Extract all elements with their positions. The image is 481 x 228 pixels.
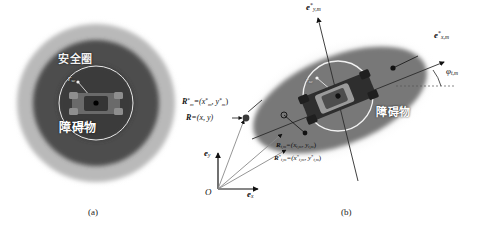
vehicle-top-view-a	[69, 92, 123, 115]
R-rhs: =(x, y)	[191, 113, 213, 122]
radius-subscript-b: sc	[309, 79, 313, 84]
caption-b: (b)	[341, 207, 352, 217]
R-tm-rhs3: )	[314, 141, 316, 149]
vector-R-star-m-label: R*m=(x*m, y*m)	[182, 97, 228, 107]
origin-label: O	[205, 187, 212, 197]
R-tm-rhs: =(x	[286, 141, 296, 149]
vehicle-center-dot	[93, 100, 98, 105]
R-tm-star-rhs: =(x	[286, 154, 296, 162]
panel-a-graphics	[8, 15, 184, 191]
R-star-m-rhs: =(x	[194, 97, 206, 106]
vehicle-wheel	[114, 92, 123, 99]
vehicle-wheel	[69, 108, 78, 115]
vehicle-wheel	[114, 108, 123, 115]
figure-container: 安全圈 障碍物 rsc e*y,m e*x,m φt,m rsc 障碍物 R*m…	[0, 0, 481, 228]
vector-R	[218, 120, 244, 189]
basis-x-star-sub: x,m	[441, 34, 449, 40]
vehicle-wheel	[69, 92, 78, 99]
e-y-sub: y	[208, 152, 210, 158]
panel-b-graphics	[218, 7, 459, 193]
radius-endpoint-dot-b	[315, 76, 318, 79]
basis-y-star-label: e*y,m	[306, 2, 321, 12]
e-x-sub: x	[251, 193, 253, 199]
R-tm-star-rhs3: )	[319, 154, 321, 162]
vector-R-tm-label: Rt,m=(xt,m, yt,m)	[276, 141, 316, 149]
reference-point-dot	[303, 131, 308, 136]
vector-R-label: R=(x, y)	[186, 113, 213, 122]
safety-zone-label-a: 安全圈	[58, 50, 93, 66]
radius-endpoint-dot	[76, 80, 79, 83]
global-basis-x-label: ex	[247, 189, 253, 199]
phi-angle-label: φt,m	[446, 66, 458, 76]
R-star-m-rhs3: )	[225, 97, 228, 106]
obstacle-label-a: 障碍物	[59, 118, 97, 135]
obstacle-label-b: 障碍物	[376, 103, 411, 119]
radius-label-a: rsc	[68, 74, 75, 83]
R-star-m-rhs2: , y	[212, 97, 220, 106]
radius-label-b: rsc	[306, 76, 312, 84]
phi-subscript: t,m	[451, 70, 458, 76]
radius-subscript-a: sc	[71, 78, 75, 83]
caption-a: (a)	[88, 207, 98, 217]
global-basis-y-label: ey	[204, 148, 210, 158]
basis-x-star-label: e*x,m	[434, 30, 449, 40]
point-R	[243, 115, 250, 122]
basis-y-star-sub: y,m	[313, 6, 321, 12]
vector-R-tm-star-label: R*t,m=(x*t,m, y*t,m)	[274, 154, 321, 162]
